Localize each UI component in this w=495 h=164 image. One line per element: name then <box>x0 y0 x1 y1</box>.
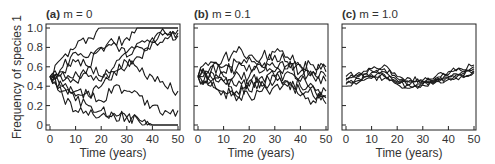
x-axis-label-b: Time (years) <box>228 146 295 160</box>
svg-text:0: 0 <box>343 133 349 145</box>
panel-c: (c) m = 1.0 01020304050 Time (years) <box>342 8 480 160</box>
y-axis-label: Frequency of species 1 <box>10 15 24 139</box>
panel-title-b: (b) m = 0.1 <box>194 8 251 20</box>
svg-text:40: 40 <box>146 133 159 145</box>
svg-text:0: 0 <box>37 119 43 131</box>
panel-title-c: (c) m = 1.0 <box>342 8 398 20</box>
svg-text:0.6: 0.6 <box>27 61 43 73</box>
svg-text:30: 30 <box>416 133 429 145</box>
x-axis-label-a: Time (years) <box>80 146 147 160</box>
svg-text:20: 20 <box>243 133 256 145</box>
svg-text:0: 0 <box>47 133 53 145</box>
panel-a: (a) m = 0 00.20.40.60.81.0 01020304050 T… <box>27 8 184 160</box>
svg-text:20: 20 <box>391 133 404 145</box>
svg-text:30: 30 <box>120 133 133 145</box>
figure: Frequency of species 1 (a) m = 0 00.20.4… <box>0 0 495 164</box>
panel-b: (b) m = 0.1 01020304050 Time (years) <box>194 8 332 160</box>
series-lines-c <box>346 64 474 88</box>
svg-text:40: 40 <box>294 133 307 145</box>
svg-text:0.4: 0.4 <box>27 80 44 92</box>
series-lines-a <box>50 28 178 125</box>
svg-text:0.8: 0.8 <box>27 41 43 53</box>
svg-text:20: 20 <box>95 133 108 145</box>
panel-title-a: (a) m = 0 <box>46 8 92 20</box>
svg-text:0.2: 0.2 <box>27 100 43 112</box>
svg-text:50: 50 <box>172 133 185 145</box>
svg-text:10: 10 <box>69 133 82 145</box>
svg-text:50: 50 <box>320 133 333 145</box>
svg-text:50: 50 <box>468 133 481 145</box>
series-lines-b <box>198 47 326 105</box>
svg-text:0: 0 <box>195 133 201 145</box>
x-axis-label-c: Time (years) <box>376 146 443 160</box>
svg-text:30: 30 <box>268 133 281 145</box>
svg-text:40: 40 <box>442 133 455 145</box>
svg-text:10: 10 <box>217 133 230 145</box>
svg-text:1.0: 1.0 <box>27 22 43 34</box>
svg-text:10: 10 <box>365 133 378 145</box>
y-tick-labels: 00.20.40.60.81.0 <box>27 22 44 131</box>
